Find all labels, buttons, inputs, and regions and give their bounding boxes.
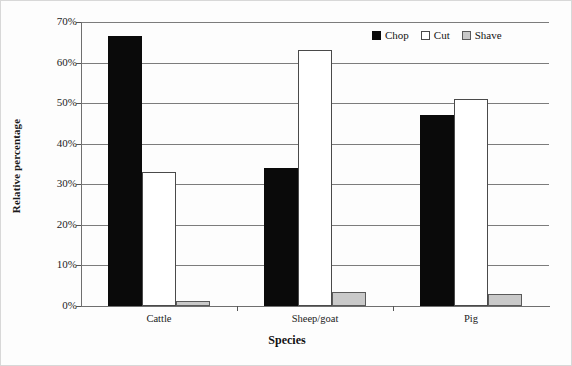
bar-sheep-goat-chop — [264, 168, 298, 306]
chart-legend: ChopCutShave — [372, 30, 502, 41]
legend-entry-chop[interactable]: Chop — [372, 30, 409, 41]
y-axis-tick-label: 0% — [25, 300, 77, 311]
y-axis-tick-label: 10% — [25, 259, 77, 270]
bars-layer — [81, 22, 549, 306]
legend-swatch-cut — [421, 31, 430, 40]
x-axis-title: Species — [1, 333, 572, 348]
y-axis-tick-label: 20% — [25, 219, 77, 230]
x-axis-line — [81, 306, 550, 307]
bar-cattle-cut — [142, 172, 176, 306]
y-axis-tick-label: 60% — [25, 57, 77, 68]
legend-label: Shave — [475, 30, 502, 41]
legend-label: Cut — [434, 30, 450, 41]
x-axis-category-label: Sheep/goat — [237, 312, 393, 325]
y-axis-tick-label: 70% — [25, 16, 77, 27]
y-axis-tick-label: 40% — [25, 138, 77, 149]
bar-pig-chop — [420, 115, 454, 306]
x-axis-category-label: Cattle — [81, 312, 237, 325]
legend-swatch-chop — [372, 31, 381, 40]
bar-sheep-goat-shave — [332, 292, 366, 306]
bar-sheep-goat-cut — [298, 50, 332, 306]
legend-entry-cut[interactable]: Cut — [421, 30, 450, 41]
x-axis-tick-mark — [237, 306, 238, 311]
bar-cattle-shave — [176, 301, 210, 306]
chart-figure: Relative percentage 0%10%20%30%40%50%60%… — [0, 0, 572, 366]
y-axis-tick-label: 30% — [25, 178, 77, 189]
x-axis-tick-mark — [393, 306, 394, 311]
x-axis-category-label: Pig — [393, 312, 549, 325]
bar-cattle-chop — [108, 36, 142, 306]
legend-entry-shave[interactable]: Shave — [462, 30, 502, 41]
y-axis-tick-labels: 0%10%20%30%40%50%60%70% — [21, 22, 77, 306]
bar-pig-shave — [488, 294, 522, 306]
legend-swatch-shave — [462, 31, 471, 40]
y-axis-tick-label: 50% — [25, 97, 77, 108]
bar-pig-cut — [454, 99, 488, 306]
legend-label: Chop — [385, 30, 409, 41]
